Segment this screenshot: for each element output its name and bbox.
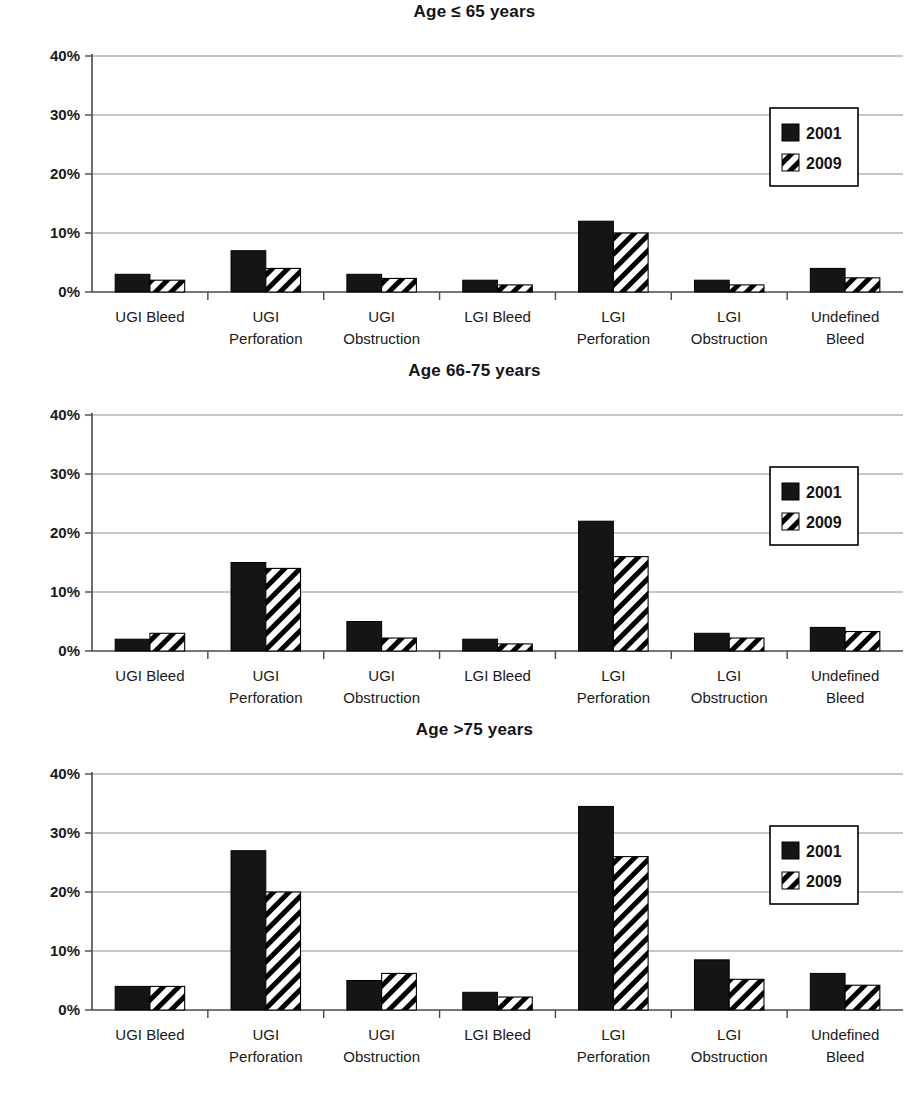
bar-group bbox=[463, 280, 533, 292]
x-axis-category-label: LGI bbox=[601, 1026, 625, 1043]
y-axis-tick-label: 0% bbox=[58, 283, 80, 300]
bar-group bbox=[231, 851, 301, 1010]
bar-2009 bbox=[845, 985, 880, 1010]
x-axis-category-label-line2: Bleed bbox=[826, 689, 864, 706]
x-axis-category-label: UGI Bleed bbox=[115, 667, 184, 684]
x-axis-category-label-line2: Bleed bbox=[826, 1048, 864, 1065]
x-axis-category-label: LGI Bleed bbox=[464, 308, 531, 325]
bar-2001 bbox=[694, 280, 729, 292]
bar-2009 bbox=[498, 644, 533, 651]
bar-group bbox=[347, 622, 417, 652]
bar-2001 bbox=[463, 639, 498, 651]
y-axis-tick-label: 10% bbox=[50, 942, 80, 959]
x-axis-category-label-line2: Perforation bbox=[577, 689, 650, 706]
bar-group bbox=[115, 274, 185, 292]
bar-group bbox=[115, 986, 185, 1010]
legend-label-2001: 2001 bbox=[806, 843, 842, 860]
x-axis-category-label: LGI bbox=[717, 308, 741, 325]
bar-2001 bbox=[231, 563, 266, 652]
y-axis-tick-label: 40% bbox=[50, 406, 80, 423]
bar-group bbox=[810, 627, 880, 651]
x-axis-category-label: LGI Bleed bbox=[464, 1026, 531, 1043]
bar-group bbox=[463, 639, 533, 651]
bar-2001 bbox=[579, 806, 614, 1010]
chart-panel-age-66-75: Age 66-75 years 0%10%20%30%40%UGI BleedU… bbox=[0, 359, 919, 718]
bar-groups bbox=[115, 521, 880, 651]
y-axis-tick-label: 10% bbox=[50, 224, 80, 241]
legend-label-2001: 2001 bbox=[806, 125, 842, 142]
bar-group bbox=[694, 280, 764, 292]
panel-title: Age >75 years bbox=[0, 718, 919, 742]
x-axis-category-label: UGI bbox=[368, 1026, 395, 1043]
x-axis-category-label: LGI bbox=[601, 667, 625, 684]
bar-group bbox=[231, 563, 301, 652]
x-axis-category-label: UGI bbox=[252, 308, 279, 325]
x-axis-category-label-line2: Obstruction bbox=[691, 1048, 768, 1065]
bar-2009 bbox=[845, 632, 880, 651]
bar-2001 bbox=[579, 221, 614, 292]
bar-2009 bbox=[845, 278, 880, 292]
chart-panel-age-gt-75: Age >75 years 0%10%20%30%40%UGI BleedUGI… bbox=[0, 718, 919, 1077]
legend-label-2009: 2009 bbox=[806, 514, 842, 531]
legend-swatch-2001-icon bbox=[782, 842, 799, 859]
bar-group bbox=[694, 960, 764, 1010]
bar-2001 bbox=[810, 268, 845, 292]
bar-group bbox=[579, 521, 649, 651]
x-axis-category-label: UGI bbox=[368, 308, 395, 325]
bar-group bbox=[347, 973, 417, 1010]
bar-2001 bbox=[579, 521, 614, 651]
bar-chart-svg: 0%10%20%30%40%UGI BleedUGIPerforationUGI… bbox=[0, 24, 919, 359]
x-axis-category-label-line2: Bleed bbox=[826, 330, 864, 347]
bar-2001 bbox=[463, 992, 498, 1010]
bar-2001 bbox=[694, 633, 729, 651]
bar-2001 bbox=[463, 280, 498, 292]
chart-legend: 20012009 bbox=[770, 826, 858, 904]
x-axis-category-label-line2: Perforation bbox=[577, 1048, 650, 1065]
bar-2001 bbox=[810, 627, 845, 651]
legend-label-2001: 2001 bbox=[806, 484, 842, 501]
bar-2001 bbox=[115, 639, 150, 651]
chart-panel-age-le-65: Age ≤ 65 years 0%10%20%30%40%UGI BleedUG… bbox=[0, 0, 919, 359]
y-axis-tick-label: 0% bbox=[58, 642, 80, 659]
x-axis-category-label-line2: Perforation bbox=[229, 330, 302, 347]
bar-group bbox=[694, 633, 764, 651]
panel-title: Age 66-75 years bbox=[0, 359, 919, 383]
legend-label-2009: 2009 bbox=[806, 873, 842, 890]
bar-2001 bbox=[347, 274, 382, 292]
bar-2009 bbox=[613, 857, 648, 1010]
y-axis-tick-label: 20% bbox=[50, 165, 80, 182]
chart-area-age-le-65: 0%10%20%30%40%UGI BleedUGIPerforationUGI… bbox=[0, 24, 919, 359]
bar-group bbox=[231, 251, 301, 292]
bar-2009 bbox=[729, 979, 764, 1010]
bar-groups bbox=[115, 806, 880, 1010]
bar-chart-svg: 0%10%20%30%40%UGI BleedUGIPerforationUGI… bbox=[0, 742, 919, 1077]
x-axis-category-label-line2: Perforation bbox=[229, 1048, 302, 1065]
bar-2009 bbox=[266, 892, 301, 1010]
bar-groups bbox=[115, 221, 880, 292]
legend-box bbox=[770, 108, 858, 186]
x-axis-category-label: UGI bbox=[252, 667, 279, 684]
bar-2009 bbox=[382, 278, 417, 292]
x-axis-category-label: Undefined bbox=[811, 667, 879, 684]
bar-2009 bbox=[382, 638, 417, 651]
bar-2009 bbox=[729, 285, 764, 292]
legend-label-2009: 2009 bbox=[806, 155, 842, 172]
bar-group bbox=[579, 806, 649, 1010]
y-axis-tick-label: 20% bbox=[50, 524, 80, 541]
x-axis-category-label-line2: Perforation bbox=[577, 330, 650, 347]
x-axis-category-label: UGI bbox=[252, 1026, 279, 1043]
x-axis-category-label-line2: Obstruction bbox=[691, 689, 768, 706]
bar-chart-svg: 0%10%20%30%40%UGI BleedUGIPerforationUGI… bbox=[0, 383, 919, 718]
bar-2009 bbox=[498, 997, 533, 1010]
bar-2009 bbox=[150, 633, 185, 651]
chart-area-age-66-75: 0%10%20%30%40%UGI BleedUGIPerforationUGI… bbox=[0, 383, 919, 718]
x-axis-category-label: Undefined bbox=[811, 1026, 879, 1043]
y-axis-tick-label: 40% bbox=[50, 765, 80, 782]
bar-group bbox=[115, 633, 185, 651]
bar-2001 bbox=[231, 251, 266, 292]
y-axis-tick-label: 30% bbox=[50, 465, 80, 482]
x-axis-category-label-line2: Obstruction bbox=[691, 330, 768, 347]
chart-legend: 20012009 bbox=[770, 108, 858, 186]
bar-group bbox=[810, 268, 880, 292]
figure-page: Age ≤ 65 years 0%10%20%30%40%UGI BleedUG… bbox=[0, 0, 919, 1096]
